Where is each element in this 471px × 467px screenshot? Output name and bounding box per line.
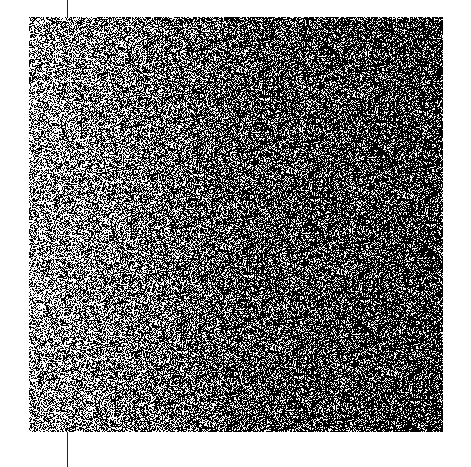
guide-line-top — [67, 0, 68, 17]
noise-image — [29, 17, 443, 432]
guide-line-bottom — [67, 432, 68, 467]
noise-canvas — [29, 17, 443, 432]
